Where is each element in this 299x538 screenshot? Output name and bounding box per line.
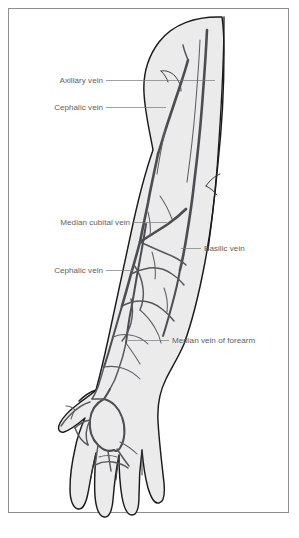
- figure-container: Axillary vein Cephalic vein Median cubit…: [0, 0, 299, 538]
- label-median-cubital-vein: Median cubital vein: [60, 218, 167, 227]
- label-text-median-vein-of-forearm: Median vein of forearm: [172, 336, 255, 345]
- label-text-cephalic-vein-upper: Cephalic vein: [54, 103, 103, 112]
- label-median-vein-of-forearm: Median vein of forearm: [128, 336, 255, 345]
- label-axillary-vein: Axillary vein: [60, 76, 215, 85]
- label-text-median-cubital-vein: Median cubital vein: [60, 218, 130, 227]
- label-text-cephalic-vein-forearm: Cephalic vein: [54, 266, 103, 275]
- label-text-axillary-vein: Axillary vein: [60, 76, 103, 85]
- label-cephalic-vein-upper: Cephalic vein: [54, 103, 166, 112]
- label-basilic-vein: Basilic vein: [181, 244, 245, 253]
- label-text-basilic-vein: Basilic vein: [204, 244, 245, 253]
- label-cephalic-vein-forearm: Cephalic vein: [54, 266, 133, 275]
- label-layer: Axillary vein Cephalic vein Median cubit…: [0, 0, 299, 538]
